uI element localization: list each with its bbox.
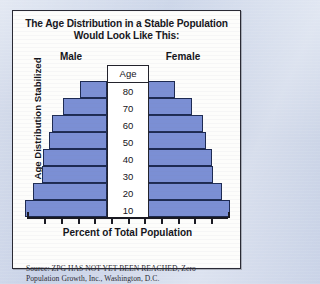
bar-female-20 bbox=[148, 183, 222, 200]
bar-male-60 bbox=[52, 115, 107, 132]
x-axis-tick bbox=[94, 218, 96, 224]
x-axis-tick bbox=[61, 218, 63, 224]
bar-female-10 bbox=[148, 200, 230, 217]
x-axis-tick bbox=[194, 218, 196, 224]
age-tick-80: 80 bbox=[108, 83, 148, 100]
age-axis-column: Age 80 70 60 50 40 30 20 10 bbox=[107, 65, 149, 217]
bar-female-30 bbox=[148, 166, 213, 183]
bar-female-80 bbox=[148, 81, 175, 98]
bar-male-20 bbox=[33, 183, 107, 200]
x-axis-tick bbox=[161, 218, 163, 224]
page-title: The Age Distribution in a Stable Populat… bbox=[19, 18, 234, 43]
age-tick-60: 60 bbox=[108, 117, 148, 134]
bar-male-80 bbox=[80, 81, 107, 98]
female-column-header: Female bbox=[153, 51, 213, 62]
x-axis-tick bbox=[78, 218, 80, 224]
x-axis-tick bbox=[228, 212, 230, 218]
age-tick-30: 30 bbox=[108, 168, 148, 185]
age-tick-40: 40 bbox=[108, 151, 148, 168]
population-pyramid-chart: Age Distribution Stabilized Male Female bbox=[13, 51, 242, 236]
bar-male-50 bbox=[49, 132, 107, 149]
bar-male-30 bbox=[42, 166, 107, 183]
age-tick-50: 50 bbox=[108, 134, 148, 151]
bar-female-50 bbox=[148, 132, 206, 149]
source-citation: Source: ZPG HAS NOT YET BEEN REACHED, Ze… bbox=[26, 264, 231, 283]
source-line-2: Growth, Inc., Washington, D.C. bbox=[61, 274, 159, 283]
male-column-header: Male bbox=[41, 51, 101, 62]
bar-male-10 bbox=[25, 200, 107, 217]
bar-female-60 bbox=[148, 115, 203, 132]
age-tick-70: 70 bbox=[108, 100, 148, 117]
x-axis-tick bbox=[178, 218, 180, 224]
figure-panel: The Age Distribution in a Stable Populat… bbox=[12, 10, 241, 269]
title-line-2: Would Look Like This: bbox=[19, 30, 234, 42]
x-axis-tick bbox=[211, 218, 213, 224]
age-tick-20: 20 bbox=[108, 185, 148, 202]
bar-male-70 bbox=[63, 98, 107, 115]
bar-female-40 bbox=[148, 149, 212, 166]
age-tick-10: 10 bbox=[108, 202, 148, 219]
x-axis-tick bbox=[44, 218, 46, 224]
x-axis-label: Percent of Total Population bbox=[13, 227, 242, 238]
age-column-header: Age bbox=[108, 66, 148, 83]
bar-female-70 bbox=[148, 98, 192, 115]
bar-male-40 bbox=[43, 149, 107, 166]
x-axis-tick bbox=[27, 212, 29, 218]
title-line-1: The Age Distribution in a Stable Populat… bbox=[19, 18, 234, 30]
